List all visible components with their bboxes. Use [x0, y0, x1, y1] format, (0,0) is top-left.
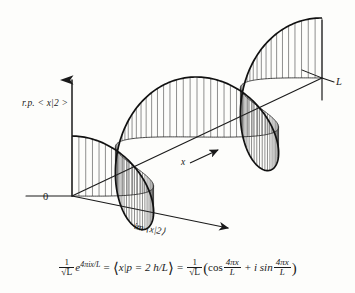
rhs-coefficient-denominator: √L [187, 268, 202, 278]
axis-lines [26, 20, 334, 228]
L-axis-tick [322, 78, 334, 82]
cosine-argument-fraction: 4πxL [224, 258, 241, 278]
sine-label: i sin [254, 261, 273, 273]
exponential-exponent: 4πix/L [80, 260, 100, 269]
helix-wavefunction-figure: r.p. < x|2 > im ⟨x|2⟩ L x 0 1√Le4πix/L=⟨… [0, 0, 355, 293]
x-direction-arrow [190, 150, 218, 163]
position-axis-label: x [181, 158, 185, 168]
lhs-coefficient-fraction: 1√L [59, 258, 74, 278]
sine-argument-fraction: 4πxL [274, 258, 291, 278]
plot-canvas [0, 0, 355, 293]
position-axis-label-text: x [181, 157, 185, 167]
plus-sign: + [242, 261, 254, 273]
origin-label: 0 [43, 192, 48, 203]
axis-end-label-L: L [336, 77, 342, 88]
braket-content: x|p = 2 h/L [119, 261, 168, 273]
vertical-axis-label-text: r.p. < x|2 > [22, 98, 68, 108]
sine-argument-denominator: L [274, 268, 291, 277]
origin-label-text: 0 [43, 191, 48, 202]
paren-close: ) [292, 260, 297, 276]
equals-sign-2: = [174, 261, 186, 273]
end-depth-tick [302, 70, 322, 78]
cosine-argument-denominator: L [224, 268, 241, 277]
equation-caption: 1√Le4πix/L=⟨x|p = 2 h/L⟩=1√L(cos4πxL+i s… [0, 258, 355, 278]
vertical-axis-label: r.p. < x|2 > [22, 99, 68, 109]
hatch-path [72, 18, 322, 230]
ribbon-hatch-lines [72, 18, 322, 230]
cosine-label: cos [208, 261, 223, 273]
rhs-coefficient-fraction: 1√L [187, 258, 202, 278]
lhs-coefficient-denominator: √L [59, 268, 74, 278]
equals-sign-1: = [100, 261, 112, 273]
axis-end-label-L-text: L [336, 76, 342, 87]
